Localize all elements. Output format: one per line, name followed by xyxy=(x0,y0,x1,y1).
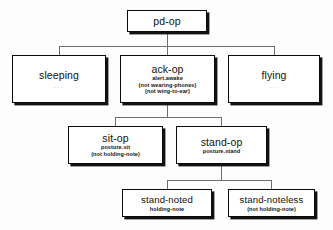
node-subtitle: (not holding-note) xyxy=(247,206,296,213)
node-subtitle: (not wing-to-ear) xyxy=(145,88,190,95)
node-sit-op[interactable]: sit-opposture.sit(not holding-note) xyxy=(68,126,163,164)
diagram-canvas: pd-opsleeping...ack-opalert.awake(not we… xyxy=(0,0,333,230)
node-ack-op[interactable]: ack-opalert.awake(not wearing-phones)(no… xyxy=(120,55,215,103)
node-subtitle: posture.sit xyxy=(101,144,130,151)
node-subtitle: (not holding-note) xyxy=(91,151,140,158)
node-pd-op[interactable]: pd-op xyxy=(127,10,207,32)
node-title: pd-op xyxy=(153,15,180,27)
node-subtitle: alert.awake xyxy=(152,75,183,82)
node-ellipsis: ... xyxy=(54,81,64,90)
node-subtitle: posture.stand xyxy=(203,148,241,155)
node-title: sleeping xyxy=(39,69,79,81)
node-stand-noted[interactable]: stand-notedholding-note xyxy=(122,189,212,217)
node-ellipsis: ... xyxy=(269,81,279,90)
node-title: stand-op xyxy=(201,136,243,148)
node-subtitle: holding-note xyxy=(150,206,184,213)
node-title: stand-noted xyxy=(141,194,193,206)
node-title: stand-noteless xyxy=(240,194,304,206)
node-title: flying xyxy=(261,69,286,81)
node-sleeping[interactable]: sleeping... xyxy=(12,55,106,103)
node-subtitle: (not wearing-phones) xyxy=(139,82,197,89)
node-title: sit-op xyxy=(102,132,128,144)
node-stand-noteless[interactable]: stand-noteless(not holding-note) xyxy=(228,189,315,217)
node-title: ack-op xyxy=(151,63,183,75)
node-flying[interactable]: flying... xyxy=(228,55,320,103)
node-stand-op[interactable]: stand-opposture.stand xyxy=(176,126,267,164)
